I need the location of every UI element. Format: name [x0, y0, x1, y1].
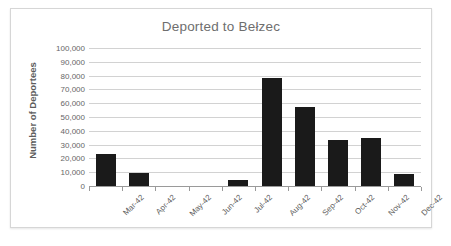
x-tickmark	[288, 187, 289, 191]
bar	[129, 173, 149, 186]
x-tick-label: Nov-42	[387, 193, 412, 218]
x-tick-label: Oct-42	[353, 193, 376, 216]
bar	[262, 78, 282, 186]
gridline	[89, 62, 421, 63]
bar	[328, 140, 348, 186]
x-tickmark	[255, 187, 256, 191]
x-tick-label: May-42	[188, 193, 213, 218]
x-tick-label: Jul-42	[253, 193, 275, 215]
bar	[361, 138, 381, 186]
y-tick-label: 20,000	[13, 154, 85, 163]
gridline	[89, 103, 421, 104]
x-tick-label: Jun-42	[220, 193, 244, 217]
gridline	[89, 76, 421, 77]
x-tickmark	[421, 187, 422, 191]
x-tickmark	[89, 187, 90, 191]
y-tick-label: 30,000	[13, 140, 85, 149]
bar	[96, 154, 116, 186]
x-tickmark	[355, 187, 356, 191]
chart-container: Deported to Bełzec Number of Deportees 1…	[10, 8, 432, 228]
y-tick-label: 90,000	[13, 57, 85, 66]
gridline	[89, 89, 421, 90]
x-axis-tick-labels: Mar-42Apr-42May-42Jun-42Jul-42Aug-42Sep-…	[89, 193, 429, 233]
x-axis-tickmarks	[89, 187, 421, 192]
x-tickmark	[155, 187, 156, 191]
bar	[295, 107, 315, 186]
plot-area	[89, 48, 421, 186]
x-tick-label: Apr-42	[154, 193, 177, 216]
x-tickmark	[122, 187, 123, 191]
y-tick-label: 0	[13, 182, 85, 191]
y-tick-label: 80,000	[13, 71, 85, 80]
y-tick-label: 40,000	[13, 126, 85, 135]
chart-title: Deported to Bełzec	[11, 19, 431, 34]
x-tick-label: Aug-42	[287, 193, 312, 218]
x-tickmark	[321, 187, 322, 191]
y-tick-label: 60,000	[13, 99, 85, 108]
x-tick-label: Sep-42	[320, 193, 345, 218]
y-tick-label: 70,000	[13, 85, 85, 94]
bar	[394, 174, 414, 186]
x-tickmark	[189, 187, 190, 191]
y-tick-label: 50,000	[13, 113, 85, 122]
y-axis-tick-labels: 100,00090,00080,00070,00060,00050,00040,…	[11, 48, 85, 186]
gridline	[89, 117, 421, 118]
x-tick-label: Mar-42	[121, 193, 145, 217]
x-tickmark	[388, 187, 389, 191]
gridline	[89, 48, 421, 49]
x-tickmark	[222, 187, 223, 191]
y-tick-label: 10,000	[13, 168, 85, 177]
gridline	[89, 131, 421, 132]
x-tick-label: Dec-42	[420, 193, 445, 218]
y-tick-label: 100,000	[13, 44, 85, 53]
